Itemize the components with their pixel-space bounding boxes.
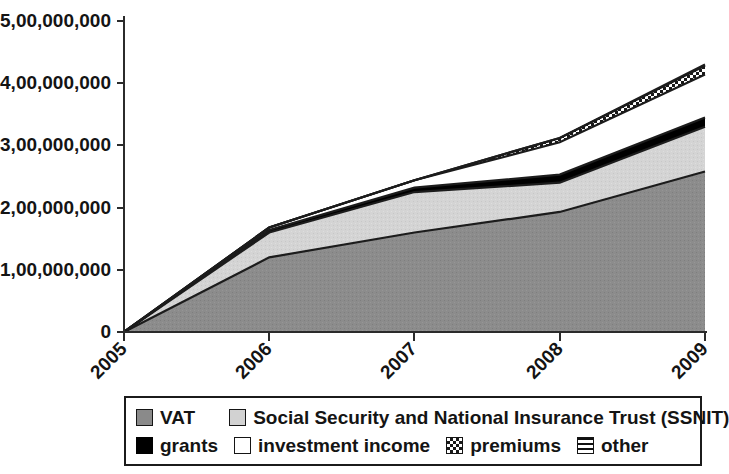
y-axis-ticks: 5,00,000,0004,00,000,0003,00,000,0002,00… [0, 10, 124, 342]
legend-label-other: other [601, 436, 649, 455]
x-tick-label: 2007 [376, 338, 421, 383]
vat-swatch [136, 409, 153, 426]
legend-item-investment-income[interactable]: investment income [234, 436, 430, 455]
legend-row-2: grants investment income premiums other [136, 436, 692, 455]
y-tick-label: 0 [100, 321, 111, 342]
y-tick-label: 2,00,000,000 [0, 197, 111, 218]
x-tick-label: 2006 [231, 338, 276, 383]
x-axis-ticks: 20052006200720082009 [86, 332, 712, 383]
chart-legend: VAT Social Security and National Insuran… [124, 396, 702, 466]
legend-item-ssnit[interactable]: Social Security and National Insurance T… [229, 408, 729, 427]
series-layers [124, 65, 705, 332]
legend-item-grants[interactable]: grants [136, 436, 218, 455]
legend-label-ssnit: Social Security and National Insurance T… [253, 408, 729, 427]
x-tick-label: 2008 [522, 338, 567, 383]
legend-label-investment-income: investment income [258, 436, 430, 455]
legend-row-1: VAT Social Security and National Insuran… [136, 408, 692, 427]
y-tick-label: 1,00,000,000 [0, 259, 111, 280]
y-tick-label: 4,00,000,000 [0, 72, 111, 93]
investment-income-swatch [234, 437, 251, 454]
legend-item-vat[interactable]: VAT [136, 408, 195, 427]
legend-label-premiums: premiums [470, 436, 561, 455]
premiums-swatch [446, 437, 463, 454]
x-tick-label: 2005 [86, 338, 131, 383]
x-tick-label: 2009 [667, 338, 712, 383]
other-swatch [577, 437, 594, 454]
legend-item-premiums[interactable]: premiums [446, 436, 561, 455]
y-tick-label: 5,00,000,000 [0, 10, 111, 31]
grants-swatch [136, 437, 153, 454]
ssnit-swatch [229, 409, 246, 426]
legend-item-other[interactable]: other [577, 436, 649, 455]
legend-label-grants: grants [160, 436, 218, 455]
legend-label-vat: VAT [160, 408, 195, 427]
y-tick-label: 3,00,000,000 [0, 134, 111, 155]
